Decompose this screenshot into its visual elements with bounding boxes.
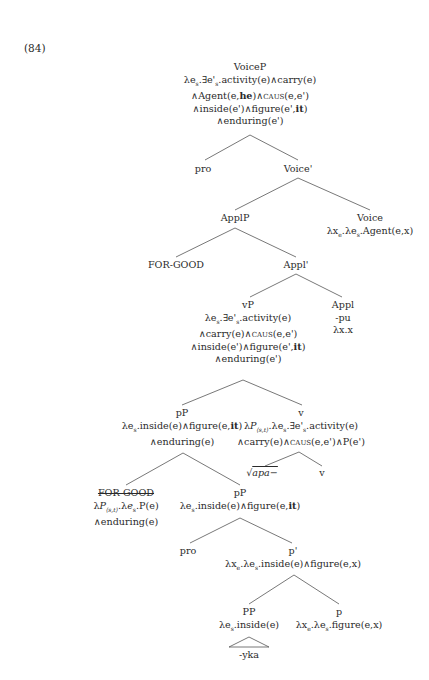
node-semantics: λP⟨s,t⟩.λes.∃e's.activity(e): [237, 420, 365, 437]
node-voice: Voice λxe.λes.Agent(e,x): [327, 212, 413, 241]
node-v: v λP⟨s,t⟩.λes.∃e's.activity(e) ∧carry(e)…: [237, 407, 365, 449]
node-for-good-low: FOR-GOOD λP⟨s,t⟩.λes.P(e) ∧enduring(e): [93, 487, 158, 529]
node-pro-low: pro: [180, 545, 197, 558]
node-voiceP: VoiceP λes.∃e's.activity(e)∧carry(e) ∧Ag…: [184, 61, 316, 128]
node-semantics: ∧inside(e')∧figure(e',it): [191, 341, 306, 354]
node-pro: pro: [195, 163, 212, 176]
node-p: p λxe.λes.figure(e,x): [296, 606, 383, 635]
node-semantics: ∧enduring(e): [93, 516, 158, 529]
node-semantics: ∧carry(e)∧caus(e,e')∧P(e'): [237, 436, 365, 449]
node-semantics: ∧enduring(e'): [184, 115, 316, 128]
node-semantics: ∧inside(e')∧figure(e',it): [184, 103, 316, 116]
node-semantics: λxe.λes.figure(e,x): [296, 619, 383, 636]
node-appl: Appl -pu λx.x: [332, 299, 354, 337]
node-applP: ApplP: [221, 212, 250, 225]
node-semantics: λes.∃e's.activity(e)∧carry(e): [184, 74, 316, 91]
node-semantics: λP⟨s,t⟩.λes.P(e): [93, 500, 158, 517]
node-PP: PP λes.inside(e): [219, 606, 279, 635]
node-v-head: v: [319, 467, 324, 480]
node-semantics: λxe.λes.inside(e)∧figure(e,x): [225, 558, 361, 575]
node-semantics: λes.inside(e): [219, 619, 279, 636]
node-vP: vP λes.∃e's.activity(e) ∧carry(e)∧caus(e…: [191, 299, 306, 366]
node-semantics: λes.∃e's.activity(e): [191, 312, 306, 329]
node-pP-upper: pP λes.inside(e)∧figure(e,it) ∧enduring(…: [122, 407, 242, 449]
node-semantics: λes.inside(e)∧figure(e,it): [180, 500, 300, 517]
node-voice-bar: Voice': [284, 163, 313, 176]
root-apa: √apa−: [246, 467, 278, 480]
node-appl-bar: Appl': [284, 259, 309, 272]
node-root: √apa−: [246, 467, 278, 480]
node-label: VoiceP: [184, 61, 316, 74]
node-yka: -yka: [239, 649, 259, 662]
node-semantics: λes.inside(e)∧figure(e,it): [122, 420, 242, 437]
node-p-bar: p' λxe.λes.inside(e)∧figure(e,x): [225, 545, 361, 574]
node-for-good: FOR-GOOD: [148, 259, 204, 272]
node-pP-lower: pP λes.inside(e)∧figure(e,it): [180, 487, 300, 516]
node-semantics: ∧carry(e)∧caus(e,e'): [191, 328, 306, 341]
node-semantics: λxe.λes.Agent(e,x): [327, 225, 413, 242]
node-semantics: ∧Agent(e,he)∧caus(e,e'): [184, 90, 316, 103]
node-semantics: ∧enduring(e): [122, 436, 242, 449]
node-semantics: ∧enduring(e'): [191, 353, 306, 366]
